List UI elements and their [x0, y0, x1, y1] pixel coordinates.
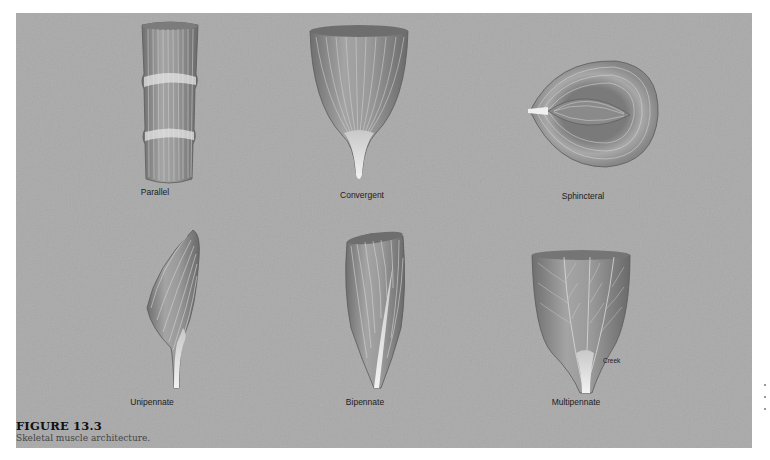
- label-multipennate: Multipennate: [552, 397, 601, 407]
- figure-panel: Parallel Convergent Sphincteral Unipenna…: [16, 13, 752, 448]
- figure-number: FIGURE 13.3: [16, 419, 102, 433]
- bipennate-muscle-illustration: [341, 228, 421, 398]
- figure-caption: Skeletal muscle architecture.: [16, 433, 150, 443]
- label-bipennate: Bipennate: [346, 397, 384, 407]
- label-sphincteral: Sphincteral: [562, 191, 605, 201]
- label-parallel: Parallel: [141, 187, 169, 197]
- sphincteral-muscle-illustration: [526, 55, 666, 175]
- label-convergent: Convergent: [340, 190, 384, 200]
- unipennate-muscle-illustration: [141, 228, 211, 398]
- label-unipennate: Unipennate: [130, 397, 173, 407]
- convergent-muscle-illustration: [306, 23, 416, 193]
- callout-creek: Creek: [603, 357, 620, 364]
- margin-marks: [764, 384, 766, 420]
- multipennate-muscle-illustration: [526, 243, 636, 403]
- parallel-muscle-illustration: [136, 19, 206, 189]
